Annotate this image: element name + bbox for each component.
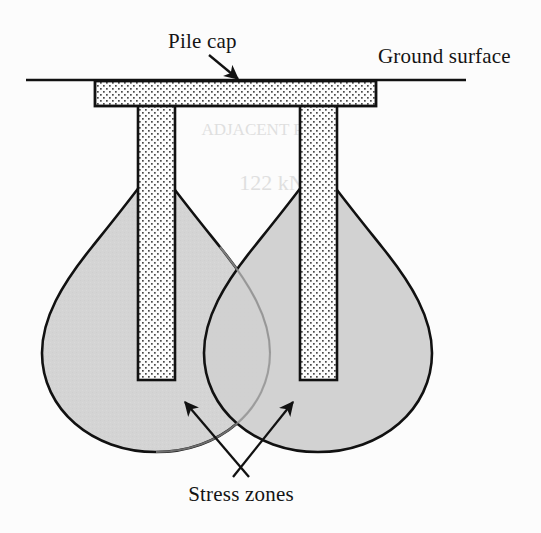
pile-cap-block xyxy=(95,81,376,106)
figure-root: ADJACENT PILES 122 kN Pile cap Ground su… xyxy=(0,0,541,533)
pile-cap-label: Pile cap xyxy=(168,29,237,53)
ground-surface-label: Ground surface xyxy=(378,44,511,68)
pile-shaft-right xyxy=(300,100,337,380)
stress-zones-label: Stress zones xyxy=(188,482,294,506)
pile-shaft-left xyxy=(138,100,175,380)
pile-group-diagram-canvas: ADJACENT PILES 122 kN Pile cap Ground su… xyxy=(0,0,541,533)
ghost-text-line-2: 122 kN xyxy=(239,170,305,195)
